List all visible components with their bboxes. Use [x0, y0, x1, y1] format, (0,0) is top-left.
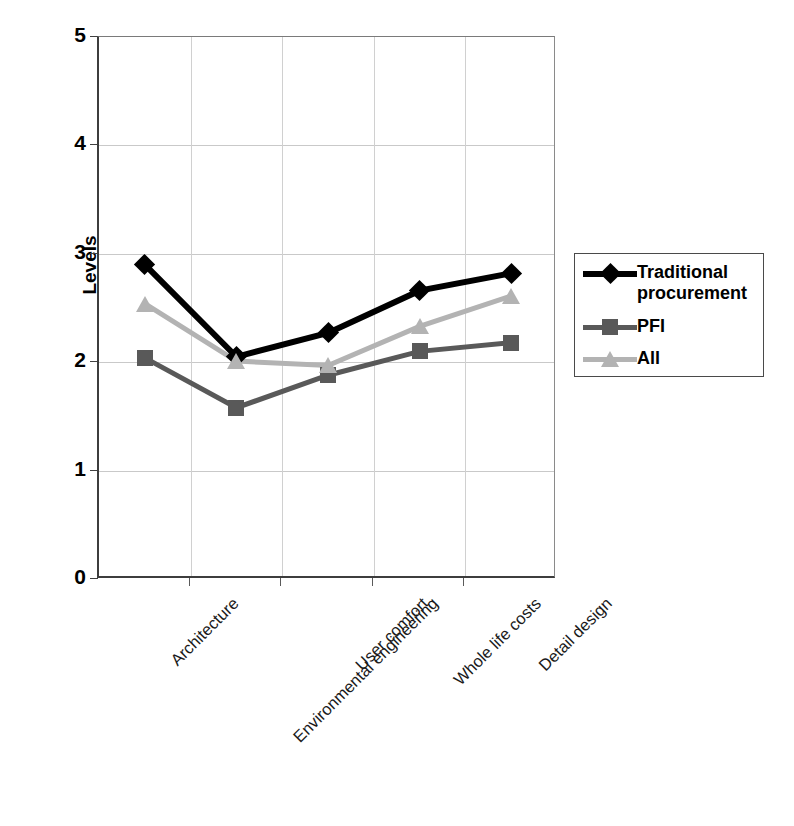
x-tick-mark — [189, 578, 190, 586]
plot-area — [97, 36, 555, 578]
y-tick-label-5: 5 — [52, 24, 86, 45]
series-line-pfi — [145, 343, 511, 408]
legend-label: All — [637, 348, 660, 369]
x-axis-label-2: User comfort — [352, 594, 432, 674]
y-tick-label-0: 0 — [52, 566, 86, 587]
legend-item-pfi[interactable]: PFI — [583, 316, 665, 337]
y-tick-label-1: 1 — [52, 458, 86, 479]
y-tick-label-3: 3 — [52, 241, 86, 262]
legend-swatch-diamond-icon — [583, 263, 637, 283]
x-axis-label-4: Detail design — [535, 594, 616, 675]
x-tick-mark — [280, 578, 281, 586]
legend-item-traditional-procurement[interactable]: Traditional procurement — [583, 262, 759, 304]
legend-item-all[interactable]: All — [583, 348, 660, 369]
series-lines — [99, 37, 557, 579]
legend-swatch-triangle-icon — [583, 349, 637, 369]
y-tick-label-2: 2 — [52, 349, 86, 370]
x-axis-label-3: Whole life costs — [449, 594, 544, 689]
line-chart: Levels 543210 ArchitectureEnvironmental … — [0, 0, 794, 826]
x-tick-mark — [463, 578, 464, 586]
x-axis-label-0: Architecture — [167, 594, 243, 670]
legend-swatch-square-icon — [583, 317, 637, 337]
y-tick-label-4: 4 — [52, 132, 86, 153]
legend-label: PFI — [637, 316, 665, 337]
legend-label: Traditional procurement — [637, 262, 759, 304]
series-line-traditional-procurement — [145, 265, 511, 357]
x-tick-mark — [372, 578, 373, 586]
legend: Traditional procurementPFIAll — [574, 253, 764, 377]
y-tick-mark — [90, 578, 98, 579]
